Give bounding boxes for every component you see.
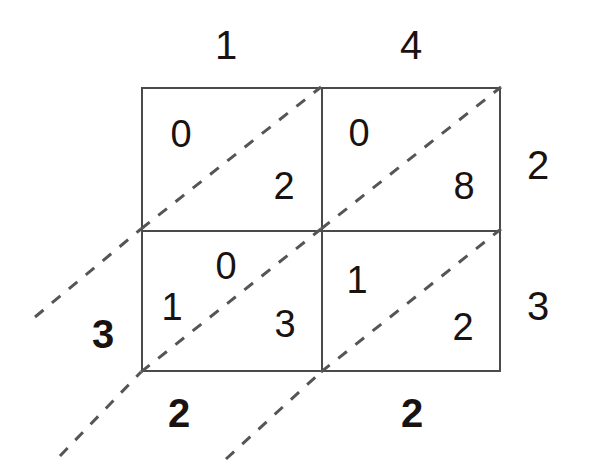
cell-r1-c1-lower-digit: 2: [452, 308, 473, 346]
cell-r1-c1-upper-digit: 1: [346, 261, 367, 299]
right-label-0: 2: [527, 145, 549, 185]
grid-divider-horizontal: [143, 230, 499, 232]
diagonal-line: [35, 229, 141, 317]
cell-r0-c1-upper-digit: 0: [348, 114, 369, 152]
cell-r1-c0-upper-digit: 0: [215, 247, 236, 285]
cell-r0-c0-lower-digit: 2: [273, 167, 294, 205]
top-label-0: 1: [215, 25, 237, 65]
right-label-1: 3: [527, 286, 549, 326]
result-bottom-2a: 2: [168, 393, 190, 433]
diagonal-line: [60, 372, 141, 456]
top-label-1: 4: [400, 25, 422, 65]
cell-r1-c0-lower-digit: 3: [274, 305, 295, 343]
diagonal-line: [226, 372, 321, 459]
lattice-multiplication-diagram: 14 23 02080312 1 322: [0, 0, 590, 470]
lattice-grid: [141, 87, 501, 372]
cell-r0-c0-upper-digit: 0: [170, 115, 191, 153]
cell-r0-c1-lower-digit: 8: [453, 167, 474, 205]
result-left-3: 3: [92, 314, 114, 354]
carry-1: 1: [161, 288, 182, 326]
result-bottom-2b: 2: [401, 393, 423, 433]
